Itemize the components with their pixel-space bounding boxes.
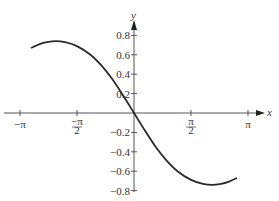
y-axis-arrow-icon: [131, 20, 137, 30]
y-tick-label: 0.6: [116, 49, 130, 61]
y-tick-label: −0.6: [110, 165, 130, 177]
x-tick-label: π: [245, 118, 251, 130]
y-tick-label: −0.8: [110, 185, 130, 197]
x-tick-label: −π: [14, 118, 26, 130]
y-tick-label: 0.8: [116, 29, 130, 41]
x-tick-label: −π2: [71, 115, 83, 136]
x-tick-label: π2: [186, 115, 196, 136]
chart: x y −π−π2π2π 0.80.60.40.2−0.2−0.4−0.6−0.…: [0, 0, 279, 201]
y-axis-label: y: [130, 9, 136, 21]
svg-text:2: 2: [188, 124, 194, 136]
x-axis: x: [4, 106, 272, 118]
y-tick-label: 0.4: [116, 68, 130, 80]
svg-text:2: 2: [74, 124, 80, 136]
x-axis-label: x: [266, 106, 272, 118]
y-axis: y: [130, 9, 137, 192]
y-tick-label: −0.2: [110, 126, 130, 138]
x-axis-arrow-icon: [256, 110, 265, 116]
y-tick-label: −0.4: [110, 146, 130, 158]
